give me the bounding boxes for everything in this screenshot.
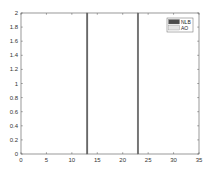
y-tick-label: 1 — [15, 81, 19, 87]
legend-swatch-nlb — [169, 20, 180, 25]
x-tick-label: 10 — [69, 157, 76, 163]
bar-nlb-13 — [86, 13, 88, 154]
x-tick-label: 35 — [196, 157, 203, 163]
y-tick-label: 0.6 — [10, 109, 19, 115]
legend-label-ao: AO — [181, 25, 188, 31]
y-tick-label: 0.8 — [10, 95, 19, 101]
x-tick-label: 20 — [119, 157, 126, 163]
y-tick-label: 0.2 — [10, 137, 19, 143]
legend-swatch-ao — [169, 26, 180, 31]
legend: NLBAO — [167, 18, 193, 32]
plot-area — [21, 13, 199, 154]
y-tick-label: 0.4 — [10, 123, 19, 129]
x-tick-label: 0 — [19, 157, 23, 163]
y-tick-label: 1.6 — [10, 38, 19, 44]
bar-chart: 05101520253035 00.20.40.60.811.21.41.61.… — [0, 0, 208, 170]
x-tick-label: 30 — [170, 157, 177, 163]
y-tick-label: 1.2 — [10, 66, 19, 72]
x-tick-label: 25 — [145, 157, 152, 163]
y-tick-label: 0 — [15, 151, 19, 157]
x-tick-label: 5 — [45, 157, 49, 163]
y-tick-label: 1.4 — [10, 52, 19, 58]
y-tick-label: 1.8 — [10, 24, 19, 30]
x-tick-label: 15 — [94, 157, 101, 163]
bar-nlb-23 — [137, 13, 139, 154]
y-tick-label: 2 — [15, 10, 19, 16]
